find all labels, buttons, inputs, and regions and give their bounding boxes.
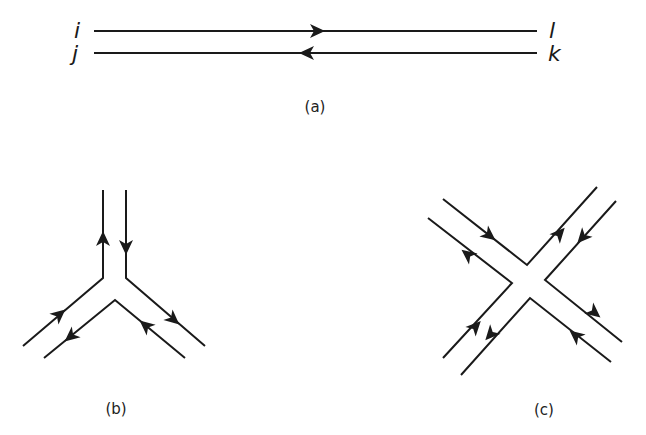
- panel-b: (b): [23, 190, 205, 418]
- index-label-k: k: [548, 41, 562, 66]
- arrow-up-right-icon: [465, 316, 485, 337]
- caption-b: (b): [105, 400, 126, 418]
- vertex-c-bottom-line: [461, 298, 611, 375]
- arrow-up-right-icon: [549, 223, 569, 244]
- index-label-i: i: [74, 18, 80, 43]
- vertex-c-right-line: [545, 201, 622, 342]
- panel-c: (c): [428, 187, 622, 419]
- vertex-b-left-line: [23, 190, 103, 346]
- vertex-b-right-line: [126, 190, 205, 346]
- caption-c: (c): [534, 401, 554, 419]
- index-label-j: j: [69, 41, 79, 66]
- caption-a: (a): [305, 98, 326, 116]
- vertex-b-inner-line: [44, 300, 185, 358]
- arrow-up-left-icon: [457, 244, 477, 264]
- panel-a: i j l k (a): [69, 18, 562, 116]
- vertex-c-left-line: [428, 218, 512, 358]
- double-line-diagram: i j l k (a) (b): [0, 0, 646, 435]
- arrow-down-right-icon: [479, 226, 499, 246]
- index-label-l: l: [549, 18, 555, 43]
